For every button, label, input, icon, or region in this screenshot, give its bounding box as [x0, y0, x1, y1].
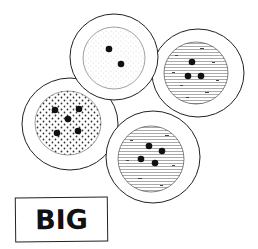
hole-icon	[152, 160, 159, 167]
hole-icon	[198, 73, 205, 80]
hole-icon	[65, 116, 72, 123]
hole-icon	[52, 107, 59, 114]
hole-icon	[106, 46, 113, 53]
cookie-right	[152, 29, 244, 117]
cookie-bottom	[106, 111, 200, 203]
hole-icon	[54, 130, 61, 137]
hole-icon	[75, 128, 82, 135]
hole-icon	[189, 59, 196, 66]
hole-icon	[159, 148, 166, 155]
hole-icon	[138, 156, 145, 163]
hole-icon	[76, 106, 83, 113]
cookie-top	[70, 14, 158, 100]
hole-icon	[185, 73, 192, 80]
hole-icon	[118, 61, 125, 68]
hole-icon	[146, 143, 153, 150]
size-label: BIG	[35, 204, 88, 236]
size-label-box: BIG	[15, 197, 108, 243]
